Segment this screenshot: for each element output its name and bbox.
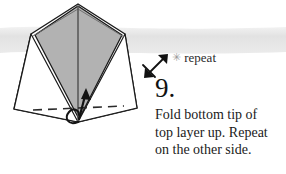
origami-step-diagram: [0, 0, 160, 145]
step-number: 9.: [155, 73, 175, 103]
instruction-line-3: on the other side.: [155, 141, 283, 159]
instruction-line-2: top layer up. Repeat: [155, 124, 283, 142]
repeat-label-text: repeat: [184, 50, 216, 65]
repeat-star-icon: ✳: [172, 51, 181, 63]
repeat-label-group: ✳ repeat: [172, 50, 216, 66]
instruction-text: Fold bottom tip of top layer up. Repeat …: [155, 106, 283, 159]
origami-instruction-page: ✳ repeat 9. Fold bottom tip of top layer…: [0, 0, 286, 174]
instruction-line-1: Fold bottom tip of: [155, 106, 283, 124]
